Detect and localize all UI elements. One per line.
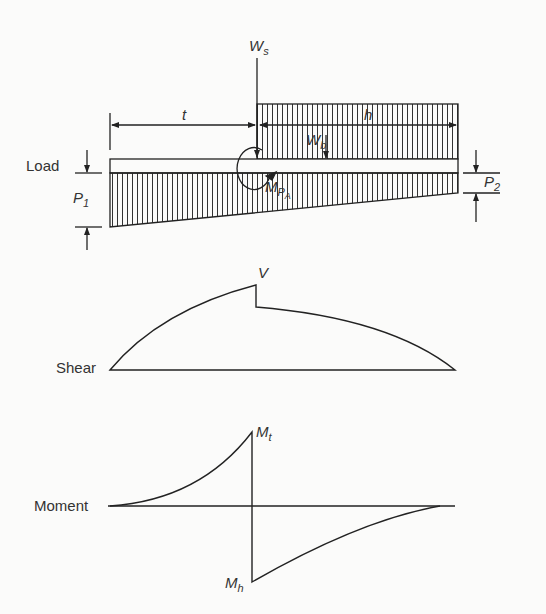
load-shear-moment-diagram: Load Ws t h Wb MPA P1 P2 Shear V Moment … <box>0 0 546 614</box>
load-diagram <box>75 58 500 250</box>
moment-diagram <box>108 432 455 582</box>
moment-curve <box>110 432 440 582</box>
load-label: Load <box>26 157 59 174</box>
t-label: t <box>182 106 187 123</box>
moment-min-label: Mh <box>225 574 244 594</box>
p2-label: P2 <box>484 173 500 193</box>
shear-diagram <box>110 285 455 370</box>
shear-peak-label: V <box>258 264 270 281</box>
upper-distributed-load <box>257 104 458 159</box>
shear-label: Shear <box>56 359 96 376</box>
p1-label: P1 <box>73 189 89 209</box>
h-label: h <box>364 106 372 123</box>
shear-curve <box>110 285 455 370</box>
beam <box>110 159 458 173</box>
moment-label: Moment <box>34 497 89 514</box>
ws-label: Ws <box>249 37 269 57</box>
moment-max-label: Mt <box>256 423 273 443</box>
